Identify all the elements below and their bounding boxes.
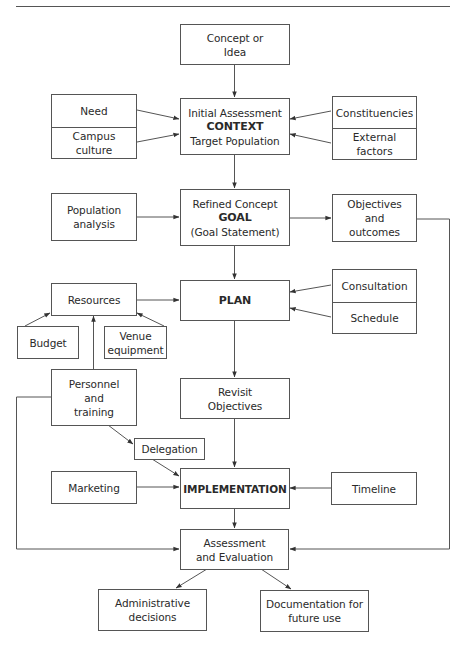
node-text: and Evaluation [196, 550, 273, 564]
node-text: Idea [224, 45, 246, 59]
node-text: equipment [108, 343, 164, 357]
node-delegation: Delegation [134, 438, 205, 460]
node-timeline: Timeline [331, 472, 417, 505]
node-text: Population [67, 203, 121, 217]
node-text: Campus [73, 129, 116, 143]
node-heading: IMPLEMENTATION [183, 482, 286, 496]
node-text: Personnel [69, 377, 119, 391]
node-text: Administrative [115, 596, 190, 610]
node-venue-equipment: Venue equipment [104, 326, 167, 359]
node-text: culture [76, 143, 113, 157]
node-text: future use [288, 611, 341, 625]
node-text: Revisit [218, 385, 252, 399]
node-text: Schedule [350, 311, 398, 325]
node-administrative-decisions: Administrative decisions [98, 589, 207, 631]
node-text: Timeline [352, 482, 396, 496]
node-text: Venue [119, 329, 151, 343]
node-text: Need [80, 104, 107, 118]
node-text: decisions [129, 610, 177, 624]
node-text: Consultation [341, 279, 407, 293]
node-personnel-training: Personnel and training [51, 369, 137, 426]
node-assessment-evaluation: Assessment and Evaluation [180, 529, 289, 570]
node-consultation: Consultation [333, 270, 416, 302]
node-text: (Goal Statement) [190, 225, 279, 239]
node-concept: Concept or Idea [180, 24, 290, 65]
node-text: Marketing [68, 481, 119, 495]
node-text: Constituencies [336, 106, 413, 120]
node-text: Concept or [207, 31, 264, 45]
node-heading: GOAL [218, 211, 251, 225]
node-implementation: IMPLEMENTATION [180, 468, 290, 509]
node-heading: CONTEXT [207, 120, 264, 134]
node-objectives-outcomes: Objectives and outcomes [332, 194, 417, 242]
node-text: Resources [68, 293, 121, 307]
node-text: Refined Concept [193, 197, 278, 211]
node-campus-culture: Campus culture [52, 127, 136, 158]
node-external-factors: External factors [333, 128, 416, 159]
node-text: Documentation for [266, 597, 363, 611]
node-group-constituencies-external: Constituencies External factors [332, 96, 417, 160]
node-text: factors [356, 144, 392, 158]
node-text: and [84, 391, 103, 405]
node-text: Budget [29, 336, 66, 350]
node-resources: Resources [51, 283, 137, 316]
node-text: outcomes [349, 225, 400, 239]
node-plan: PLAN [180, 280, 290, 321]
node-text: training [74, 405, 114, 419]
node-text: Target Population [190, 134, 279, 148]
node-group-consultation-schedule: Consultation Schedule [332, 269, 417, 334]
node-schedule: Schedule [333, 302, 416, 333]
node-text: External [353, 130, 397, 144]
node-text: and [365, 211, 384, 225]
node-text: analysis [73, 217, 115, 231]
node-text: Objectives [208, 399, 262, 413]
node-budget: Budget [17, 326, 79, 359]
node-constituencies: Constituencies [333, 97, 416, 128]
node-marketing: Marketing [51, 471, 137, 504]
node-text: Delegation [141, 442, 197, 456]
node-population-analysis: Population analysis [51, 193, 137, 241]
node-text: Objectives [347, 197, 401, 211]
node-text: Initial Assessment [188, 106, 282, 120]
node-group-need-culture: Need Campus culture [51, 94, 137, 159]
node-need: Need [52, 95, 136, 127]
node-documentation: Documentation for future use [260, 590, 369, 632]
node-revisit-objectives: Revisit Objectives [180, 378, 290, 419]
node-initial-assessment: Initial Assessment CONTEXT Target Popula… [180, 98, 290, 155]
node-refined-concept: Refined Concept GOAL (Goal Statement) [180, 189, 290, 246]
node-text: Assessment [204, 536, 266, 550]
node-heading: PLAN [219, 294, 251, 308]
